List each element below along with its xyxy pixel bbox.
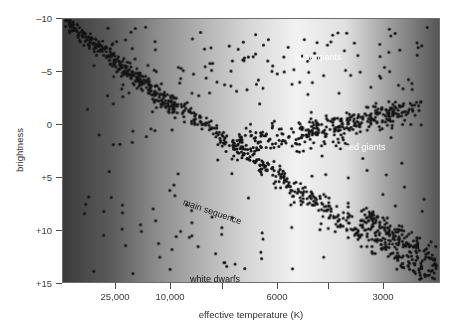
y-axis-tick-label: 0 (47, 119, 52, 130)
x-axis-tick (115, 283, 116, 289)
hr-diagram: supergiants red giants main sequence whi… (0, 0, 456, 332)
y-axis-tick-label: +10 (36, 225, 52, 236)
y-axis-tick (56, 18, 62, 19)
x-axis-tick-label: 6000 (266, 291, 287, 302)
y-axis-tick-label: –5 (41, 66, 52, 77)
y-axis-tick-label: +5 (41, 172, 52, 183)
x-axis-tick (383, 283, 384, 289)
y-axis-tick (56, 177, 62, 178)
x-axis-tick (328, 283, 329, 289)
x-axis-tick-label: 25,000 (100, 291, 129, 302)
y-axis-tick-label: +15 (36, 278, 52, 289)
x-axis-tick (222, 283, 223, 289)
x-axis-tick (277, 283, 278, 289)
y-axis-tick (56, 71, 62, 72)
y-axis-tick-label: –10 (36, 13, 52, 24)
plot-area: supergiants red giants main sequence whi… (62, 18, 440, 283)
y-axis-tick (56, 283, 62, 284)
x-axis-title: effective temperature (K) (199, 309, 303, 320)
y-axis-tick (56, 230, 62, 231)
y-axis-title: brightness (14, 128, 25, 172)
x-axis-tick-label: 10,000 (155, 291, 184, 302)
x-axis-tick-label: 3000 (372, 291, 393, 302)
y-axis-tick (56, 124, 62, 125)
x-axis-tick (170, 283, 171, 289)
scatter-plot-canvas (63, 19, 439, 282)
